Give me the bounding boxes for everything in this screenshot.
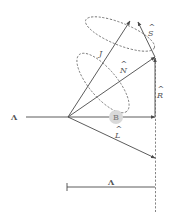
label-lambda: Λ: [107, 177, 115, 187]
hat-r: ^: [158, 84, 165, 93]
hat-n: ^: [121, 59, 128, 68]
axis-label-left: Λ: [10, 112, 18, 122]
vector-n: [68, 57, 155, 117]
hat-l: ^: [116, 124, 123, 133]
vector-coupling-diagram: Λ J S ^ N ^ R ^ B L ^ Λ: [0, 0, 176, 215]
hat-s: ^: [149, 22, 156, 31]
precession-ellipse-top: [82, 10, 159, 58]
vector-l: [68, 117, 155, 158]
label-j: J: [97, 49, 103, 58]
label-b: B: [113, 113, 119, 122]
